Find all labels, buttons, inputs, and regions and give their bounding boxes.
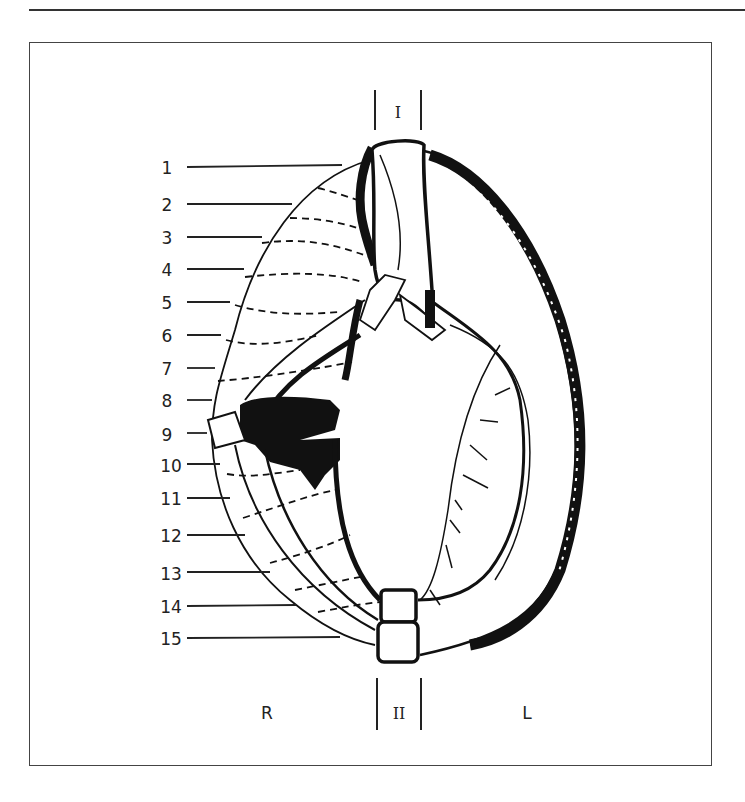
- label-1: 1: [162, 158, 173, 178]
- dense-band: [430, 155, 580, 645]
- marker-II: II: [393, 704, 406, 723]
- rib-spine: [420, 345, 500, 600]
- fork-left: [360, 275, 405, 330]
- label-14: 14: [160, 597, 182, 617]
- label-10: 10: [160, 456, 182, 476]
- label-2: 2: [162, 195, 173, 215]
- label-9: 9: [162, 425, 173, 445]
- fork-dark-patch: [425, 290, 435, 328]
- lower-inner-wall: [335, 440, 380, 600]
- label-12: 12: [160, 526, 182, 546]
- left-tip: [208, 412, 245, 448]
- label-15: 15: [160, 629, 182, 649]
- label-11: 11: [160, 489, 182, 509]
- marker-I: I: [395, 103, 401, 122]
- side-label-R: R: [261, 703, 273, 723]
- label-7: 7: [162, 359, 173, 379]
- label-6: 6: [162, 326, 173, 346]
- label-13: 13: [160, 564, 182, 584]
- label-4: 4: [162, 260, 173, 280]
- label-8: 8: [162, 391, 173, 411]
- column-II-bottom: [378, 622, 418, 662]
- rib-branches: [430, 388, 510, 605]
- column-II-top: [381, 590, 416, 622]
- side-label-L: L: [522, 703, 532, 723]
- bone-diagram: I II R L: [0, 0, 745, 802]
- label-5: 5: [162, 293, 173, 313]
- label-3: 3: [162, 228, 173, 248]
- inner-lining-right: [418, 300, 524, 600]
- inner-lining-thin: [450, 325, 530, 580]
